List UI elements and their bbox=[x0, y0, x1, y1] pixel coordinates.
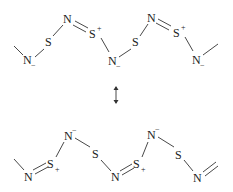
charge-t5: − bbox=[116, 62, 121, 71]
atom-t8: S bbox=[173, 26, 180, 40]
charge-t8: + bbox=[181, 23, 186, 32]
atom-t4: S bbox=[89, 27, 96, 41]
charge-b3: − bbox=[72, 126, 77, 135]
atom-t2: S bbox=[45, 35, 52, 49]
atom-b6: S bbox=[133, 157, 140, 171]
atom-b8: S bbox=[175, 148, 182, 162]
resonance-arrow-icon bbox=[114, 86, 119, 104]
charge-t1: − bbox=[31, 61, 36, 70]
charge-t9: − bbox=[200, 61, 205, 70]
atom-t7: N bbox=[147, 11, 156, 25]
bottom-structure-atoms: N S + N − S N S + N − S N bbox=[24, 125, 202, 185]
charge-b7: − bbox=[155, 125, 160, 134]
atom-t6: S bbox=[132, 35, 139, 49]
charge-b6: + bbox=[141, 165, 146, 174]
resonance-diagram: N − S N S + N − S N S + N − N bbox=[0, 0, 233, 192]
charge-t4: + bbox=[97, 24, 102, 33]
atom-b2: S bbox=[47, 157, 54, 171]
charge-b2: + bbox=[55, 165, 60, 174]
atom-b4: S bbox=[92, 147, 99, 161]
atom-b9: N bbox=[193, 171, 202, 185]
atom-t3: N bbox=[63, 12, 72, 26]
atom-b5: N bbox=[111, 170, 120, 184]
top-structure-atoms: N − S N S + N − S N S + N − bbox=[23, 11, 205, 71]
atom-b1: N bbox=[24, 170, 33, 184]
